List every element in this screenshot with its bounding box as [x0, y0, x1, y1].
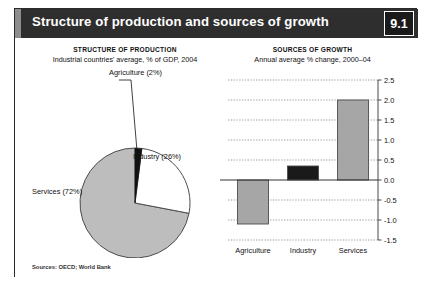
bar-chart-svg — [220, 68, 410, 268]
pie-label-industry: Industry (26%) — [133, 152, 181, 161]
y-axis-tick-label: 1.5 — [384, 116, 394, 125]
bar-agriculture — [238, 180, 269, 224]
pie-chart-title: STRUCTURE OF PRODUCTION — [25, 46, 225, 53]
pie-chart-subtitle: Industrial countries' average, % of GDP,… — [25, 55, 225, 64]
y-axis-tick-label: 0.0 — [384, 176, 394, 185]
y-axis-tick-label: 1.0 — [384, 136, 394, 145]
pie-label-agriculture: Agriculture (2%) — [109, 68, 162, 77]
y-axis-tick-label: -1.0 — [384, 216, 397, 225]
x-axis-label-agriculture: Agriculture — [228, 246, 278, 255]
header-accent-bar — [15, 9, 21, 38]
y-axis-tick-label: 2.5 — [384, 76, 394, 85]
agriculture-leader-line — [119, 80, 137, 151]
bar-chart-title: SOURCES OF GROWTH — [220, 46, 405, 53]
figure-number-badge: 9.1 — [384, 11, 414, 36]
bar-chart-tickmarks — [378, 80, 382, 240]
figure-box: Structure of production and sources of g… — [14, 8, 417, 277]
pie-label-services: Services (72%) — [32, 187, 82, 196]
page-title: Structure of production and sources of g… — [32, 14, 329, 29]
y-axis-tick-label: -0.5 — [384, 196, 397, 205]
y-axis-tick-label: 2.0 — [384, 96, 394, 105]
bar-chart: 2.52.01.51.00.50.0-0.5-1.0-1.5 Agricultu… — [220, 68, 410, 268]
bar-chart-subtitle: Annual average % change, 2000–04 — [220, 55, 405, 64]
bar-services — [338, 100, 369, 180]
bar-chart-bars — [238, 100, 369, 224]
source-note: Sources: OECD; World Bank — [32, 264, 111, 270]
y-axis-tick-label: -1.5 — [384, 236, 397, 245]
bar-industry — [288, 166, 319, 180]
x-axis-label-services: Services — [328, 246, 378, 255]
x-axis-label-industry: Industry — [278, 246, 328, 255]
pie-chart: Agriculture (2%) Industry (26%) Services… — [23, 68, 228, 258]
pie-chart-svg — [23, 68, 228, 258]
y-axis-tick-label: 0.5 — [384, 156, 394, 165]
figure-header: Structure of production and sources of g… — [15, 9, 418, 38]
figure-content: STRUCTURE OF PRODUCTION Industrial count… — [15, 38, 418, 277]
